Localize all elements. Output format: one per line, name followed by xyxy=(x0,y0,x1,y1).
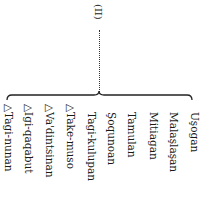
branch-label: △Take-muso xyxy=(65,104,77,169)
branch-item: Malaşlaşan xyxy=(168,112,180,210)
dotted-connector xyxy=(99,30,100,94)
branch-label: Malaşlaşan xyxy=(168,112,180,172)
branch-item: Mitiagan xyxy=(148,112,160,210)
branch-label: Uşogan xyxy=(189,112,201,152)
branch-item: Tamulan xyxy=(126,112,138,210)
branch-item: △Tagi-nunan xyxy=(3,104,15,210)
branch-label: △Igi-qaqabut xyxy=(23,104,35,174)
branch-item: △Take-muso xyxy=(65,104,77,210)
branch-item: △Igi-qaqabut xyxy=(23,104,35,210)
branch-label: Tamulan xyxy=(126,112,138,158)
branch-label: △Va'dintsinan xyxy=(44,104,56,177)
branch-item: Tagi-kulupan xyxy=(86,112,98,210)
branch-label: Tagi-kulupan xyxy=(86,112,98,181)
branch-label: Mitiagan xyxy=(148,112,160,160)
branch-item: △Va'dintsinan xyxy=(44,104,56,210)
branch-label: △Tagi-nunan xyxy=(3,104,15,171)
branch-item: Şoqunoan xyxy=(106,112,118,210)
branch-label: Şoqunoan xyxy=(106,112,118,165)
branch-item: Uşogan xyxy=(189,112,201,210)
root-node-label: (II) xyxy=(92,4,104,20)
grouping-brace xyxy=(0,90,205,104)
